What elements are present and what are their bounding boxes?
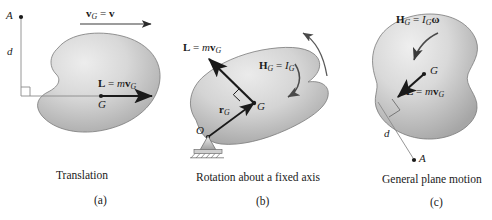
right-angle-square-a [21,87,30,96]
position-vector-label-b: rG [219,104,230,117]
center-of-mass-label-a: G [98,99,106,110]
ground-hatching-b [190,154,224,159]
panel-letter-a: (a) [94,195,107,207]
point-a-label-a: A [6,10,13,21]
panel-letter-c: (c) [430,197,443,209]
point-a-dot [19,15,23,19]
linear-momentum-equation-b: L = mvG [183,42,221,55]
point-a-dot-c [412,158,416,162]
distance-label-c: d [384,128,390,139]
angular-momentum-equation-b: HG = IG [259,60,294,73]
linear-momentum-equation-c: L = mvG [406,86,444,99]
center-of-mass-label-b: G [257,101,265,112]
figure-vector-graphics [0,0,492,220]
rigid-body-shape-c [373,14,478,139]
velocity-equation-a: vG = v [86,8,114,21]
center-of-mass-label-c: G [430,65,438,76]
panel-letter-b: (b) [256,196,269,208]
center-of-mass-dot-c [422,72,426,76]
point-a-label-c: A [419,153,426,164]
distance-label-a: d [7,46,13,57]
pin-support-base-b [194,150,222,154]
rigid-body-motion-figure: A d vG = v L = mvG G Translation (a) L =… [0,0,492,220]
panel-a-graphics [19,15,160,132]
caption-panel-a: Translation [56,170,108,182]
caption-panel-b: Rotation about a fixed axis [196,172,320,184]
caption-panel-c: General plane motion [382,174,482,186]
center-of-mass-dot-b [252,101,256,105]
pivot-label-b: O [196,125,204,136]
linear-momentum-equation-a: L = mvG [98,78,136,91]
angular-momentum-equation-c: HG = IGω [396,14,439,27]
